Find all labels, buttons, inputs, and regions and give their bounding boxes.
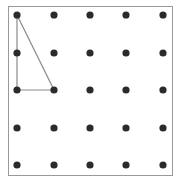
peg-dot — [159, 124, 166, 131]
peg-dot — [50, 49, 57, 56]
peg-dot — [50, 124, 57, 131]
peg-dot — [86, 161, 93, 168]
peg-dot — [159, 86, 166, 93]
peg-dot — [50, 161, 57, 168]
peg-dot — [13, 161, 20, 168]
peg-dot — [50, 86, 57, 93]
peg-dot — [159, 49, 166, 56]
peg-dot — [122, 124, 129, 131]
triangle-shape — [17, 15, 54, 90]
peg-dot — [122, 11, 129, 18]
peg-dot — [86, 86, 93, 93]
peg-dot — [86, 11, 93, 18]
peg-dot — [86, 49, 93, 56]
peg-dot — [13, 86, 20, 93]
peg-dot — [50, 11, 57, 18]
peg-dot — [86, 124, 93, 131]
peg-dot — [13, 49, 20, 56]
peg-dot — [122, 161, 129, 168]
peg-dot — [159, 161, 166, 168]
peg-dot — [13, 11, 20, 18]
geoboard-diagram — [0, 0, 177, 182]
peg-dot — [122, 86, 129, 93]
peg-dot — [122, 49, 129, 56]
peg-dot — [159, 11, 166, 18]
peg-dot — [13, 124, 20, 131]
